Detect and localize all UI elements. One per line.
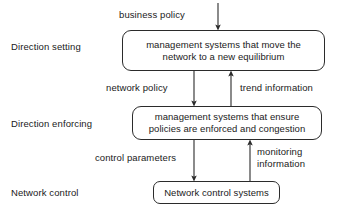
edge-label-monitoring-line2: information (257, 158, 305, 169)
layer-label-network-control: Network control (11, 187, 79, 198)
edge-label-business-policy: business policy (119, 9, 185, 20)
edge-label-trend-information: trend information (240, 82, 313, 93)
diagram-canvas: Direction setting Direction enforcing Ne… (0, 0, 337, 215)
node-management-systems-equilibrium-label: management systems that move the network… (129, 39, 318, 63)
edge-label-monitoring-line1: monitoring (257, 146, 302, 157)
edge-label-control-parameters: control parameters (95, 152, 176, 163)
layer-label-direction-enforcing: Direction enforcing (11, 118, 92, 129)
node-management-systems-equilibrium[interactable]: management systems that move the network… (122, 30, 325, 71)
edge-label-network-policy: network policy (106, 82, 168, 93)
layer-label-direction-setting: Direction setting (11, 41, 81, 52)
edge-label-monitoring-information: monitoringinformation (257, 146, 329, 169)
node-management-systems-enforcement[interactable]: management systems that ensure policies … (132, 106, 322, 140)
node-management-systems-enforcement-label: management systems that ensure policies … (139, 111, 315, 135)
node-network-control-systems-label: Network control systems (160, 187, 273, 199)
node-network-control-systems[interactable]: Network control systems (153, 181, 280, 204)
